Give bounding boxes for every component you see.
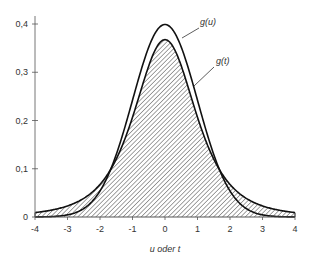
label-g-u: g(u) <box>200 17 216 27</box>
x-tick-label: 1 <box>195 224 200 234</box>
x-tick-label: 0 <box>162 224 167 234</box>
leader-g-t <box>194 67 214 86</box>
y-tick-label: 0,1 <box>15 164 28 174</box>
y-tick-label: 0 <box>23 212 28 222</box>
x-tick-label: -2 <box>96 224 104 234</box>
x-tick-label: -3 <box>63 224 71 234</box>
x-tick-label: 2 <box>227 224 232 234</box>
x-axis: -4-3-2-101234 <box>31 217 298 234</box>
x-tick-label: 3 <box>260 224 265 234</box>
x-axis-title: u oder t <box>150 244 181 254</box>
x-tick-label: -4 <box>31 224 39 234</box>
t-area-hatched <box>35 40 295 217</box>
plot-area <box>35 25 295 217</box>
distribution-chart: 00,10,20,30,4 -4-3-2-101234 u oder t g(u… <box>0 0 311 267</box>
label-g-t: g(t) <box>216 56 230 66</box>
y-axis: 00,10,20,30,4 <box>15 16 38 222</box>
y-tick-label: 0,4 <box>15 19 28 29</box>
x-tick-label: 4 <box>292 224 297 234</box>
x-tick-label: -1 <box>128 224 136 234</box>
y-tick-label: 0,3 <box>15 67 28 77</box>
leader-g-u <box>182 28 199 38</box>
y-tick-label: 0,2 <box>15 116 28 126</box>
